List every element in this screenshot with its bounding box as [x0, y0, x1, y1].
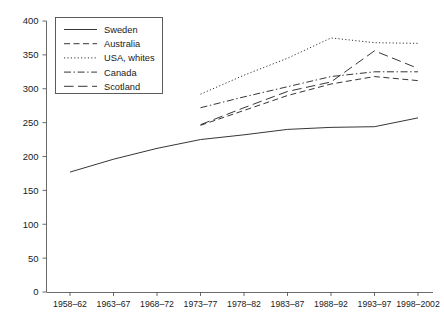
y-tick-label: 100: [23, 219, 39, 230]
y-tick-label: 150: [23, 185, 39, 196]
y-tick-label: 200: [23, 151, 39, 162]
legend-label: USA, whites: [104, 53, 155, 63]
x-axis: 1958–621963–671968–721973–771978–821983–…: [47, 292, 440, 309]
x-tick-label: 1983–87: [271, 299, 305, 309]
y-axis: 050100150200250300350400: [23, 15, 47, 297]
x-tick-label: 1998–2002: [396, 299, 440, 309]
x-tick-label: 1968–72: [140, 299, 174, 309]
chart-canvas: 050100150200250300350400 1958–621963–671…: [0, 0, 444, 327]
y-tick-label: 250: [23, 117, 39, 128]
series-line-sweden: [70, 118, 418, 172]
x-tick-label: 1963–67: [97, 299, 131, 309]
series-line-australia: [201, 77, 419, 126]
y-tick-label: 0: [33, 286, 38, 297]
x-tick-label: 1978–82: [227, 299, 261, 309]
line-chart: 050100150200250300350400 1958–621963–671…: [0, 0, 444, 327]
x-tick-label: 1958–62: [53, 299, 87, 309]
x-tick-label: 1973–77: [184, 299, 218, 309]
x-tick-label: 1988–92: [314, 299, 348, 309]
legend-label: Canada: [104, 68, 137, 78]
y-tick-label: 50: [28, 253, 39, 264]
y-tick-label: 300: [23, 83, 39, 94]
x-tick-label: 1993–97: [358, 299, 392, 309]
series-line-scotland: [201, 51, 419, 125]
legend-label: Scotland: [104, 82, 140, 92]
x-axis-tick-labels: 1958–621963–671968–721973–771978–821983–…: [53, 299, 440, 309]
legend-label: Australia: [104, 39, 141, 49]
y-axis-tick-labels: 050100150200250300350400: [23, 15, 39, 297]
chart-legend: SwedenAustraliaUSA, whitesCanadaScotland: [56, 18, 163, 94]
series-line-usa-whites: [201, 38, 419, 94]
y-tick-label: 350: [23, 49, 39, 60]
legend-label: Sweden: [104, 25, 138, 35]
y-axis-ticks: [43, 21, 47, 292]
y-tick-label: 400: [23, 15, 39, 26]
